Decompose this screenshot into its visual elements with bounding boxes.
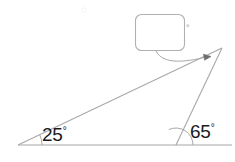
- angle-label-left-degree: °: [63, 125, 67, 136]
- angle-label-left: 25°: [42, 125, 67, 144]
- callout-box[interactable]: [136, 15, 185, 51]
- callout-arrowhead-icon: [204, 54, 212, 60]
- angle-label-right-degree: °: [211, 122, 215, 133]
- angle-label-right-value: 65: [190, 121, 211, 142]
- diagram-canvas: 25° 65° °: [0, 0, 235, 162]
- callout-degree-symbol: °: [186, 24, 190, 33]
- angle-label-left-value: 25: [42, 124, 63, 145]
- faint-artifact-mark: [82, 8, 86, 12]
- angle-label-right: 65°: [190, 122, 215, 141]
